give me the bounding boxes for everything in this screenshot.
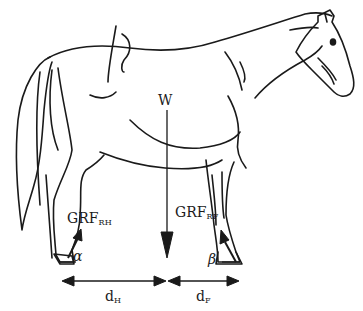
dist-fore-label: dF [196, 289, 211, 305]
neck-outline [255, 46, 322, 98]
dist-hind-label: dH [105, 289, 121, 305]
dist-fore-main: d [196, 288, 205, 304]
dimension-hind [62, 276, 166, 286]
dist-fore-sub: F [205, 296, 211, 305]
dist-hind-main: d [105, 288, 114, 304]
dimension-fore [168, 276, 239, 286]
grf-rear-label: GRFRH [67, 211, 112, 227]
weight-label: W [158, 93, 172, 107]
shoulder-outline [225, 52, 242, 90]
head-outline [296, 10, 354, 96]
grf-front-sub: RF [206, 212, 218, 221]
grf-rear-main: GRF [67, 210, 98, 226]
grf-rear-sub: RH [98, 218, 111, 227]
belly-outline [100, 152, 222, 169]
back-outline [48, 13, 332, 58]
angle-beta-label: β [208, 252, 216, 266]
horse-illustration [0, 0, 363, 311]
grf-front-label: GRFRF [175, 205, 218, 221]
dist-hind-sub: H [114, 296, 121, 305]
horse-force-diagram: W GRFRH GRFRF α β dH dF [0, 0, 363, 311]
angle-alpha-label: α [73, 249, 82, 263]
weight-vector [161, 110, 173, 258]
tail-outline [16, 57, 52, 230]
grf-front-main: GRF [175, 204, 206, 220]
